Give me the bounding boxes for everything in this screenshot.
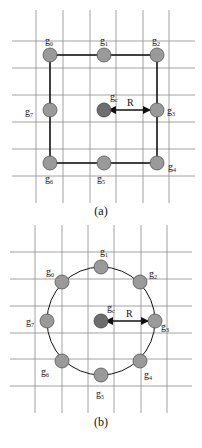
label-a-radius: R: [127, 97, 134, 108]
diagram-canvas: g0 g1 g2 g3 g4 g5 g6 g7 gc R (a): [0, 0, 202, 448]
figure-b: g0 g1 g2 g3 g4 g5 g6 g7 gc R (b): [10, 225, 192, 429]
node-b-g0: [55, 275, 69, 289]
node-a-g5: [97, 156, 111, 170]
label-b-g3: g3: [161, 321, 169, 333]
node-b-g2: [133, 275, 147, 289]
label-a-g5: g5: [97, 173, 105, 185]
node-a-g7: [43, 103, 57, 117]
node-a-g3: [150, 103, 164, 117]
label-a-g2: g2: [152, 35, 160, 47]
label-b-g1: g1: [100, 246, 108, 258]
node-b-g4: [133, 354, 147, 368]
label-a-g7: g7: [25, 106, 33, 118]
node-b-g3: [148, 314, 162, 328]
label-b-g7: g7: [26, 316, 34, 328]
figure-a: g0 g1 g2 g3 g4 g5 g6 g7 gc R (a): [12, 10, 195, 218]
node-a-g4: [150, 156, 164, 170]
label-b-g6: g6: [41, 366, 49, 378]
label-b-g5: g5: [96, 388, 104, 400]
center-node-a: [97, 103, 111, 117]
caption-a: (a): [94, 204, 107, 218]
node-b-g1: [94, 260, 108, 274]
label-a-g0: g0: [45, 35, 53, 47]
label-b-radius: R: [126, 308, 133, 319]
label-a-g3: g3: [167, 105, 175, 117]
label-a-g1: g1: [100, 35, 108, 47]
label-a-gc: gc: [110, 91, 118, 103]
node-a-g1: [97, 48, 111, 62]
label-b-g0: g0: [46, 266, 54, 278]
caption-b: (b): [94, 415, 108, 429]
center-node-b: [94, 314, 108, 328]
node-a-g2: [150, 48, 164, 62]
label-b-g2: g2: [149, 268, 157, 280]
label-b-g4: g4: [144, 369, 152, 381]
node-b-g5: [94, 368, 108, 382]
label-a-g4: g4: [168, 161, 176, 173]
node-a-g6: [43, 156, 57, 170]
label-a-g6: g6: [45, 173, 53, 185]
node-a-g0: [43, 48, 57, 62]
node-b-g6: [55, 354, 69, 368]
node-b-g7: [40, 314, 54, 328]
